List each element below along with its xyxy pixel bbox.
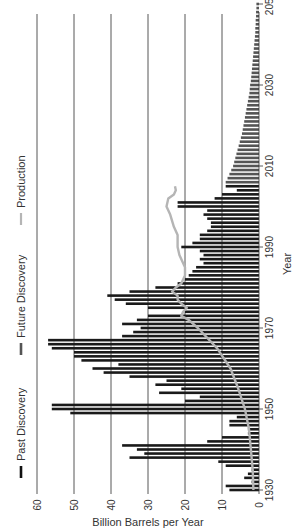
bar (242, 132, 259, 135)
bar (133, 331, 259, 334)
bar (229, 173, 259, 176)
bar (115, 298, 259, 301)
year-tick-label: 1990 (264, 235, 275, 258)
bar (256, 11, 259, 14)
bar (104, 371, 259, 374)
bar (178, 201, 259, 204)
bar (233, 165, 259, 168)
bar (122, 444, 259, 447)
gridlines (37, 14, 222, 494)
bar (231, 169, 259, 172)
value-tick-label: 20 (180, 499, 191, 511)
bar (239, 144, 259, 147)
bar (211, 221, 259, 224)
oil-discovery-chart: 0102030405060193019501970199020102030205… (0, 0, 303, 532)
bar (192, 242, 259, 245)
bar (200, 234, 259, 237)
bar (204, 213, 260, 216)
year-tick-label: 1950 (264, 397, 275, 420)
bar (248, 100, 259, 103)
bar (48, 339, 259, 342)
bar (130, 290, 260, 293)
bar (253, 55, 259, 58)
bar (251, 76, 259, 79)
year-axis-label: Year (281, 253, 293, 276)
bar (122, 335, 259, 338)
bar (245, 116, 259, 119)
bar (185, 400, 259, 403)
year-tick-label: 2050 (264, 0, 275, 15)
bar (229, 424, 259, 427)
bar (130, 375, 260, 378)
bar (93, 367, 260, 370)
bar (256, 23, 259, 26)
bar (256, 15, 259, 18)
bar (107, 294, 259, 297)
bar (185, 278, 259, 281)
bar (237, 189, 259, 192)
axes (259, 4, 263, 494)
past-discovery-bars (48, 185, 259, 491)
bar (244, 477, 259, 480)
bar (52, 404, 259, 407)
value-tick-label: 10 (217, 499, 228, 511)
bar (252, 63, 259, 66)
bar (222, 193, 259, 196)
bar (200, 396, 259, 399)
bar (243, 128, 259, 131)
bar (240, 140, 259, 143)
value-tick-label: 60 (32, 499, 43, 511)
bar (130, 456, 260, 459)
bar (222, 436, 259, 439)
bar (226, 464, 259, 467)
bar (148, 315, 259, 318)
bar (181, 387, 259, 390)
value-tick-label: 50 (69, 499, 80, 511)
bar (226, 185, 259, 188)
bar (253, 59, 259, 62)
bar (250, 84, 259, 87)
bar (241, 136, 259, 139)
bar (185, 311, 259, 314)
year-tick-label: 1930 (264, 478, 275, 501)
value-tick-label: 30 (143, 499, 154, 511)
bar (254, 43, 259, 46)
bar (250, 88, 259, 91)
bar (236, 153, 259, 156)
bar (226, 181, 259, 184)
legend-label: Production (15, 155, 27, 208)
bar (159, 392, 259, 395)
bar (204, 262, 260, 265)
bar (52, 408, 259, 411)
bar (155, 286, 259, 289)
bar (204, 254, 260, 257)
bar (253, 51, 259, 54)
bar (52, 347, 259, 350)
bar (200, 238, 259, 241)
legend: Past DiscoveryFuture DiscoveryProduction (15, 155, 27, 478)
year-tick-label: 1970 (264, 316, 275, 339)
value-tick-label: 0 (254, 502, 265, 508)
bar (137, 448, 259, 451)
bar (211, 225, 259, 228)
bar (235, 157, 259, 160)
bar (155, 383, 259, 386)
future-discovery-bars (226, 3, 259, 184)
bar (228, 177, 259, 180)
bar (178, 282, 259, 285)
bar (148, 306, 259, 309)
bar (256, 7, 259, 10)
bar (256, 19, 259, 22)
bar (247, 104, 259, 107)
bar (70, 412, 259, 415)
bar (207, 217, 259, 220)
bar (167, 379, 260, 382)
bar (200, 258, 259, 261)
value-tick-label: 40 (106, 499, 117, 511)
bar (244, 120, 259, 123)
bar (178, 205, 259, 208)
value-axis-label: Billion Barrels per Year (92, 516, 204, 528)
bar (255, 27, 259, 30)
bar (252, 68, 259, 71)
bar (200, 250, 259, 253)
